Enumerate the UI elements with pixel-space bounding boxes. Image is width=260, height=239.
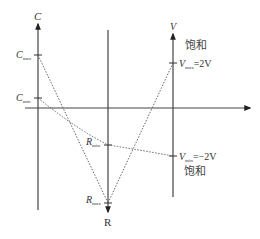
saturation-top-label: 饱和	[185, 38, 207, 52]
cmin-label: Cmin	[16, 92, 31, 104]
cmax-label: Cmax	[16, 49, 32, 61]
rmin-label: Rmin	[85, 136, 100, 148]
c-axis-label: C	[34, 10, 42, 22]
cmin-to-rmin-curve	[38, 98, 108, 145]
rmax-label: Rmax	[85, 194, 101, 206]
r-axis-label: R	[104, 216, 112, 228]
v-axis-label: V	[170, 21, 178, 32]
rmax-to-vmax-line	[108, 63, 173, 203]
rmin-to-vmin-curve	[108, 145, 173, 156]
vmax-label: Vmax=2V	[179, 58, 212, 70]
cmax-to-rmax-line	[38, 55, 108, 203]
saturation-bottom-label: 饱和	[184, 164, 206, 178]
capacitance-voltage-resistance-diagram: C V R Cmax Cmin Vmax=2V Vmin=−2V Rmin Rm…	[0, 0, 260, 239]
vmin-label: Vmin=−2V	[179, 151, 217, 163]
